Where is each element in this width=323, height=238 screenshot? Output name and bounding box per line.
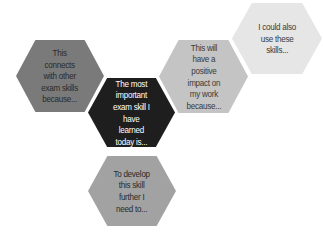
hexagon-develop-text: To develop this skill further I need to.… <box>111 168 153 214</box>
hexagon-connects: This connects with other exam skills bec… <box>16 40 104 112</box>
hexagon-also-use: I could also use these skills... <box>232 3 322 74</box>
hexagon-connects-text: This connects with other exam skills bec… <box>39 47 81 105</box>
hexagon-impact-text: This will have a positive impact on my w… <box>182 42 225 112</box>
hexagon-diagram: This connects with other exam skills bec… <box>0 0 323 238</box>
hexagon-impact: This will have a positive impact on my w… <box>159 40 248 113</box>
hexagon-center: The most important exam skill I have lea… <box>88 78 175 147</box>
hexagon-center-text: The most important exam skill I have lea… <box>111 78 153 148</box>
hexagon-also-use-text: I could also use these skills... <box>255 21 298 56</box>
hexagon-develop: To develop this skill further I need to.… <box>88 156 176 226</box>
